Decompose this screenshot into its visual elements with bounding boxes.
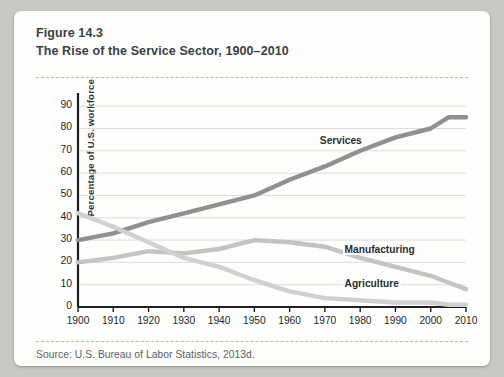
- y-axis-tick: 60: [46, 166, 72, 177]
- figure-number: Figure 14.3: [36, 25, 289, 42]
- chart-canvas: [36, 89, 468, 333]
- figure-title: The Rise of the Service Sector, 1900–201…: [36, 42, 289, 60]
- x-axis-tick: 1990: [375, 315, 415, 326]
- x-axis-tick: 1970: [305, 315, 345, 326]
- x-axis-tick: 1920: [129, 315, 169, 326]
- divider-top: [36, 77, 468, 78]
- chart-plot-area: Percentage of U.S. workforce 01020304050…: [36, 89, 468, 333]
- y-axis-tick: 50: [46, 188, 72, 199]
- x-axis-tick: 2000: [411, 315, 451, 326]
- y-axis-tick: 0: [46, 300, 72, 311]
- series-label-manufacturing: Manufacturing: [343, 244, 417, 255]
- x-axis-tick: 1980: [340, 315, 380, 326]
- divider-bottom: [36, 341, 468, 342]
- y-axis-tick: 40: [46, 211, 72, 222]
- x-axis-tick: 2010: [446, 315, 486, 326]
- x-axis-tick: 1900: [58, 315, 98, 326]
- x-axis-tick: 1940: [199, 315, 239, 326]
- y-axis-tick: 90: [46, 99, 72, 110]
- y-axis-tick: 70: [46, 144, 72, 155]
- y-axis-tick: 30: [46, 233, 72, 244]
- series-label-services: Services: [318, 135, 364, 146]
- source-note: Source: U.S. Bureau of Labor Statistics,…: [36, 349, 255, 360]
- y-axis-tick: 10: [46, 278, 72, 289]
- x-axis-tick: 1910: [93, 315, 133, 326]
- x-axis-tick: 1960: [270, 315, 310, 326]
- x-axis-tick: 1950: [234, 315, 274, 326]
- y-axis-tick: 20: [46, 255, 72, 266]
- x-axis-tick: 1930: [164, 315, 204, 326]
- series-label-agriculture: Agriculture: [343, 278, 401, 289]
- figure-card: Figure 14.3 The Rise of the Service Sect…: [14, 11, 490, 366]
- figure-header: Figure 14.3 The Rise of the Service Sect…: [36, 25, 289, 60]
- y-axis-tick: 80: [46, 121, 72, 132]
